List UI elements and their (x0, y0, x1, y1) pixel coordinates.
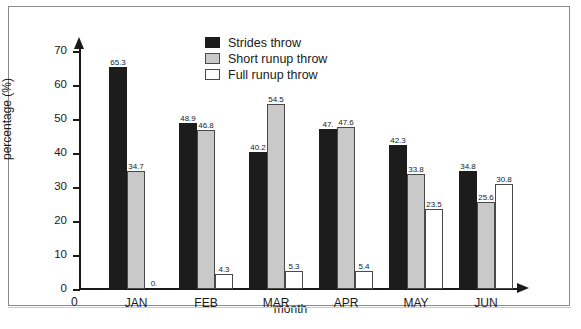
legend-swatch-icon (205, 53, 220, 64)
bar-value-label: 48.9 (180, 115, 196, 123)
bar-value-label: 47. (322, 121, 333, 129)
bar-group: 34.825.630.8JUN (459, 51, 513, 289)
figure-frame: 010203040506070 percentage (%) 0 65.334.… (8, 6, 570, 306)
y-tick-mark (73, 289, 80, 291)
bar[interactable]: 34.8 (459, 171, 477, 289)
bar[interactable]: 5.4 (355, 271, 373, 289)
bar[interactable]: 34.7 (127, 171, 145, 289)
bar-value-label: 23.5 (426, 201, 442, 209)
bar-value-label: 5.3 (288, 263, 299, 271)
legend-item[interactable]: Short runup throw (205, 51, 327, 66)
bar-value-label: 40.2 (250, 144, 266, 152)
bar-value-label: 54.5 (268, 96, 284, 104)
y-tick-label: 60 (37, 79, 67, 91)
y-tick-label: 0 (37, 283, 67, 295)
legend-label: Full runup throw (228, 68, 318, 82)
bar[interactable]: 42.3 (389, 145, 407, 289)
y-tick-label: 40 (37, 147, 67, 159)
legend-item[interactable]: Full runup throw (205, 67, 327, 82)
bar[interactable]: 30.8 (495, 184, 513, 289)
bar-value-label: 5.4 (358, 263, 369, 271)
bar-group: 65.334.70.JAN (109, 51, 163, 289)
bar[interactable]: 5.3 (285, 271, 303, 289)
legend-swatch-icon (205, 69, 220, 80)
caption-divider (8, 307, 571, 308)
bar-group: 48.946.84.3FEB (179, 51, 233, 289)
legend-label: Short runup throw (228, 52, 327, 66)
legend-label: Strides throw (228, 36, 301, 50)
bar-value-label: 34.8 (460, 163, 476, 171)
bar-value-label: 25.6 (478, 194, 494, 202)
bar[interactable]: 46.8 (197, 130, 215, 289)
bar[interactable]: 40.2 (249, 152, 267, 289)
bar[interactable]: 33.8 (407, 174, 425, 289)
y-tick-label: 50 (37, 113, 67, 125)
bar[interactable]: 25.6 (477, 202, 495, 289)
bar-group: 47.47.65.4APR (319, 51, 373, 289)
bar-groups: 65.334.70.JAN48.946.84.3FEB40.254.55.3MA… (79, 51, 519, 289)
bar[interactable]: 65.3 (109, 67, 127, 289)
legend-swatch-icon (205, 37, 220, 48)
bar[interactable]: 48.9 (179, 123, 197, 289)
bar-value-label: 46.8 (198, 122, 214, 130)
bar-value-label: 4.3 (218, 266, 229, 274)
y-axis-title: percentage (%) (0, 78, 14, 160)
y-tick-label: 30 (37, 181, 67, 193)
y-tick-label: 70 (37, 45, 67, 57)
bar-value-label: 33.8 (408, 166, 424, 174)
bar[interactable]: 4.3 (215, 274, 233, 289)
bar[interactable]: 47.6 (337, 127, 355, 289)
bar-value-label: 65.3 (110, 59, 126, 67)
y-tick-label: 10 (37, 249, 67, 261)
bar[interactable]: 54.5 (267, 104, 285, 289)
bar[interactable]: 47. (319, 129, 337, 289)
bar-group: 40.254.55.3MAR (249, 51, 303, 289)
bar-value-label: 30.8 (496, 176, 512, 184)
bar-value-label: 34.7 (128, 163, 144, 171)
bar-value-label: 0. (151, 280, 158, 288)
bar-group: 42.333.823.5MAY (389, 51, 443, 289)
legend-item[interactable]: Strides throw (205, 35, 327, 50)
y-tick-label: 20 (37, 215, 67, 227)
bar-value-label: 47.6 (338, 119, 354, 127)
bar-value-label: 42.3 (390, 137, 406, 145)
chart-legend: Strides throwShort runup throwFull runup… (205, 35, 327, 83)
bar[interactable]: 23.5 (425, 209, 443, 289)
x-axis-title: month (0, 302, 581, 316)
